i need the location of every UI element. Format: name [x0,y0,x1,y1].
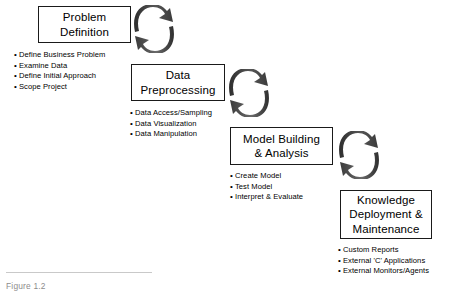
list-item: •Data Visualization [130,119,212,130]
stage-title-line: Definition [60,25,109,40]
list-item-label: Define Business Problem [19,50,105,61]
figure-caption: Figure 1.2 [6,281,206,292]
list-item-label: Create Model [235,171,281,182]
stage-title-line: Deployment & [349,207,422,222]
list-item-label: Define Initial Approach [19,71,96,82]
list-item-label: Data Visualization [135,119,197,130]
stage-title-line: Maintenance [353,222,420,237]
stage-title-line: Problem [63,10,107,25]
list-item: •External 'C' Applications [338,256,429,267]
cycle-arrows-icon [339,131,379,179]
bullet-list-model-building-analysis: •Create Model •Test Model •Interpret & E… [230,171,303,203]
bullet-list-data-preprocessing: •Data Access/Sampling •Data Visualizatio… [130,108,212,140]
stage-title-line: Preprocessing [141,83,216,98]
stage-title-line: Data [166,68,191,83]
list-item-label: Examine Data [19,61,67,72]
list-item-label: Data Manipulation [135,129,197,140]
list-item-label: Scope Project [19,82,67,93]
list-item: •Test Model [230,182,303,193]
bullet-list-knowledge-deployment-maintenance: •Custom Reports •External 'C' Applicatio… [338,245,429,277]
list-item: •Examine Data [14,61,105,72]
list-item: •Scope Project [14,82,105,93]
list-item-label: External Monitors/Agents [343,266,429,277]
caption-divider [6,272,152,273]
diagram-canvas: Problem Definition •Define Business Prob… [0,0,457,292]
list-item-label: Interpret & Evaluate [235,192,303,203]
stage-title-line: Knowledge [357,193,415,208]
cycle-arrows-icon [229,69,269,117]
list-item: •Create Model [230,171,303,182]
list-item: •Data Manipulation [130,129,212,140]
list-item: •Data Access/Sampling [130,108,212,119]
list-item: •Custom Reports [338,245,429,256]
list-item-label: External 'C' Applications [343,256,425,267]
list-item-label: Data Access/Sampling [135,108,212,119]
list-item: •Define Business Problem [14,50,105,61]
stage-title-line: & Analysis [254,146,308,161]
bullet-list-problem-definition: •Define Business Problem •Examine Data •… [14,50,105,92]
stage-title-line: Model Building [243,132,320,147]
stage-box-data-preprocessing: Data Preprocessing [131,64,225,101]
stage-box-model-building-analysis: Model Building & Analysis [230,127,333,165]
list-item: •Define Initial Approach [14,71,105,82]
stage-box-problem-definition: Problem Definition [38,6,131,43]
list-item-label: Test Model [235,182,272,193]
stage-box-knowledge-deployment-maintenance: Knowledge Deployment & Maintenance [340,190,432,239]
cycle-arrows-icon [134,5,174,53]
list-item: •Interpret & Evaluate [230,192,303,203]
list-item: •External Monitors/Agents [338,266,429,277]
list-item-label: Custom Reports [343,245,399,256]
